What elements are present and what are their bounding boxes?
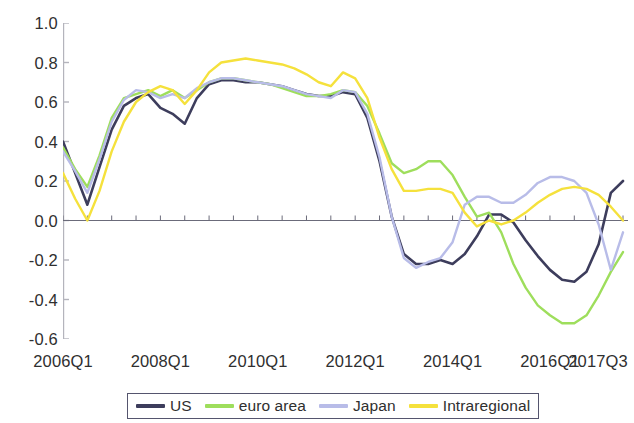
legend-label: Intraregional — [443, 397, 530, 415]
legend-item-japan[interactable]: Japan — [319, 397, 396, 415]
legend-item-euro-area[interactable]: euro area — [205, 397, 306, 415]
y-tick-label: -0.2 — [2, 251, 58, 270]
chart-legend: USeuro areaJapanIntraregional — [127, 393, 539, 419]
y-tick-label: 1.0 — [2, 14, 58, 33]
y-tick-label: 0.6 — [2, 93, 58, 112]
series-line-us — [63, 80, 623, 281]
legend-label: US — [170, 397, 192, 415]
x-tick-label: 2017Q3 — [568, 352, 627, 371]
y-tick-label: 0.0 — [2, 211, 58, 230]
y-tick-label: -0.4 — [2, 290, 58, 309]
x-axis: 2006Q12008Q12010Q12012Q12014Q12016Q12017… — [0, 352, 634, 382]
y-tick-label: 0.2 — [2, 172, 58, 191]
x-tick-label: 2008Q1 — [131, 352, 190, 371]
legend-swatch — [205, 404, 234, 407]
x-tick-label: 2010Q1 — [228, 352, 287, 371]
legend-swatch — [136, 404, 165, 407]
x-tick-label: 2006Q1 — [33, 352, 92, 371]
legend-swatch — [409, 404, 438, 407]
x-tick-label: 2012Q1 — [326, 352, 385, 371]
series-line-japan — [63, 78, 623, 270]
y-tick-label: 0.4 — [2, 132, 58, 151]
legend-label: euro area — [239, 397, 306, 415]
chart-svg — [63, 23, 628, 339]
y-tick-label: 0.8 — [2, 53, 58, 72]
legend-label: Japan — [353, 397, 396, 415]
legend-item-us[interactable]: US — [136, 397, 192, 415]
plot-area — [63, 23, 628, 339]
line-chart-figure: 1.00.80.60.40.20.0-0.2-0.4-0.6 2006Q1200… — [0, 0, 634, 423]
legend-swatch — [319, 404, 348, 407]
legend-item-intraregional[interactable]: Intraregional — [409, 397, 530, 415]
x-tick-label: 2014Q1 — [423, 352, 482, 371]
series-line-intraregional — [63, 59, 623, 227]
y-tick-label: -0.6 — [2, 330, 58, 349]
